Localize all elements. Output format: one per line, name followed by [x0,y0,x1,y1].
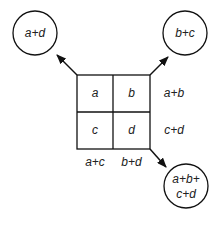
cell-b: b [113,87,150,99]
circle-total [164,164,208,208]
row-sum-bottom: c+d [156,124,192,136]
circle-label-b-plus-c: b+c [163,27,207,39]
arrow-top-left [57,55,77,75]
circle-label-total-1: a+b+ [164,173,208,185]
cell-c: c [77,124,113,136]
col-sum-right: b+d [113,156,150,168]
cell-d: d [113,124,150,136]
arrow-top-right [150,57,168,75]
col-sum-left: a+c [77,156,113,168]
cell-a: a [77,87,113,99]
arrow-bottom-right [150,149,166,167]
row-sum-top: a+b [156,87,192,99]
circle-label-total-2: c+d [164,188,208,200]
circle-label-a-plus-d: a+d [13,27,57,39]
